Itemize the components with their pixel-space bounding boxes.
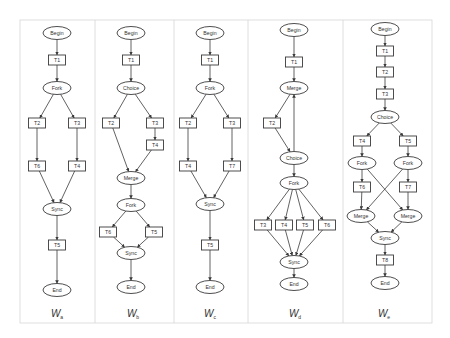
node-t5: T5 — [202, 240, 219, 250]
edge-choice-to-t5 — [391, 123, 404, 136]
node-sync: Sync — [371, 232, 399, 245]
node-choice: Choice — [371, 111, 399, 124]
node-label: T8 — [382, 257, 388, 263]
edge-choice-to-t3 — [135, 94, 151, 118]
node-end: End — [117, 281, 145, 294]
node-t5: T5 — [146, 227, 163, 237]
node-begin: Begin — [371, 23, 399, 36]
node-label: Begin — [124, 30, 137, 36]
node-sync: Sync — [43, 203, 71, 216]
node-fork: Fork — [43, 82, 71, 95]
node-label: T3 — [260, 222, 266, 228]
node-t7: T7 — [224, 161, 241, 171]
edge-t6-to-sync — [39, 171, 54, 203]
node-label: T5 — [405, 138, 411, 144]
node-label: End — [289, 281, 298, 287]
node-end: End — [196, 281, 224, 294]
node-label: T1 — [128, 57, 134, 63]
edge-mergeR-to-sync — [391, 222, 402, 232]
node-t3: T3 — [377, 89, 394, 99]
node-t3: T3 — [224, 118, 241, 128]
edge-choice-to-t2 — [114, 94, 128, 118]
node-label: Choice — [286, 155, 302, 161]
panel-caption: Wd — [289, 308, 301, 320]
edge-t4-to-sync — [60, 171, 75, 203]
node-label: T2 — [108, 120, 114, 126]
node-label: End — [126, 284, 135, 290]
node-label: End — [52, 287, 61, 293]
node-t5: T5 — [49, 240, 66, 250]
panel-caption: We — [378, 308, 390, 320]
panel-caption: Wb — [127, 308, 139, 320]
edge-t4-to-sync — [191, 171, 206, 198]
node-begin: Begin — [196, 27, 224, 40]
edge-fork-to-t2 — [191, 94, 206, 118]
node-t8: T8 — [377, 255, 394, 265]
workflow-panel-e: BeginT1T2T3ChoiceT4T5ForkForkT6T7MergeMe… — [347, 23, 422, 320]
node-t4: T4 — [147, 140, 164, 150]
node-label: Sync — [125, 250, 137, 256]
node-label: T4 — [359, 138, 365, 144]
node-label: T6 — [34, 163, 40, 169]
node-label: T2 — [382, 69, 388, 75]
node-t3: T3 — [255, 220, 272, 230]
node-label: T2 — [185, 120, 191, 126]
node-label: T3 — [74, 120, 80, 126]
node-fork: Fork — [280, 177, 308, 190]
node-label: T6 — [359, 184, 365, 190]
node-label: Fork — [289, 180, 300, 186]
node-label: Fork — [403, 160, 414, 166]
node-merge: Merge — [117, 172, 145, 185]
node-label: Fork — [205, 85, 216, 91]
edge-t4-to-sync — [285, 230, 292, 256]
node-t6: T6 — [354, 182, 371, 192]
edge-t2-to-merge — [113, 128, 129, 172]
node-t1: T1 — [202, 55, 219, 65]
node-label: Fork — [126, 202, 137, 208]
edge-t2-to-choice — [275, 128, 290, 152]
node-label: Begin — [50, 30, 63, 36]
node-t2: T2 — [103, 118, 120, 128]
node-sync: Sync — [280, 256, 308, 269]
node-label: T4 — [185, 163, 191, 169]
edge-t6-to-sync — [299, 230, 322, 256]
edge-mergeL-to-sync — [367, 222, 378, 232]
node-label: Begin — [287, 27, 300, 33]
edge-t5-to-sync — [137, 237, 148, 247]
edge-fork-to-t3 — [61, 94, 75, 118]
node-label: Sync — [288, 259, 300, 265]
node-begin: Begin — [117, 27, 145, 40]
node-label: End — [205, 284, 214, 290]
node-t6: T6 — [100, 227, 117, 237]
node-t2: T2 — [180, 118, 197, 128]
panel-caption: Wa — [51, 308, 63, 320]
node-t2: T2 — [264, 118, 281, 128]
edge-t3-to-sync — [267, 230, 289, 256]
edge-fork-to-t6 — [112, 211, 126, 227]
node-t4: T4 — [276, 220, 293, 230]
edge-fork-to-t5 — [136, 211, 150, 227]
node-t5: T5 — [297, 220, 314, 230]
node-sync: Sync — [196, 198, 224, 211]
node-label: Merge — [401, 213, 416, 219]
node-label: T3 — [382, 91, 388, 97]
node-merge: Merge — [280, 82, 308, 95]
node-label: T1 — [207, 57, 213, 63]
workflow-figure: BeginT1ForkT2T3T6T4SyncT5EndWaBeginT1Cho… — [0, 0, 450, 338]
node-fork: Fork — [117, 199, 145, 212]
node-label: T5 — [207, 242, 213, 248]
node-label: T5 — [151, 229, 157, 235]
workflow-panel-a: BeginT1ForkT2T3T6T4SyncT5EndWa — [29, 27, 86, 320]
node-label: T4 — [152, 142, 158, 148]
node-sync: Sync — [117, 247, 145, 260]
node-label: T5 — [54, 242, 60, 248]
node-label: Begin — [378, 26, 391, 32]
node-t1: T1 — [49, 55, 66, 65]
figure-frame — [20, 20, 432, 323]
node-label: Choice — [123, 85, 139, 91]
node-fork: Fork — [196, 82, 224, 95]
node-t4: T4 — [69, 161, 86, 171]
node-label: T3 — [152, 120, 158, 126]
node-label: T6 — [105, 229, 111, 235]
node-label: T2 — [34, 120, 40, 126]
